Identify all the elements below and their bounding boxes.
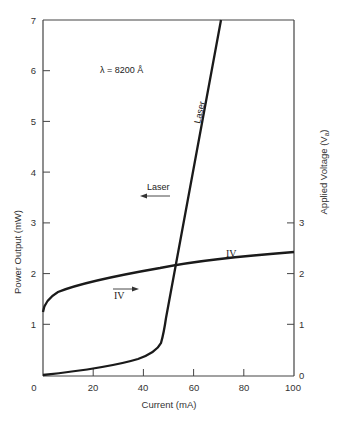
left-arrow-icon — [140, 194, 170, 199]
iv-curve-label: IV — [226, 248, 237, 259]
y2-tick-3: 3 — [299, 217, 304, 228]
y-tick-2: 2 — [31, 268, 36, 279]
y2-axis-tick-labels: 0 1 2 3 — [299, 217, 304, 381]
x-tick-80: 80 — [239, 382, 250, 393]
y-axis-title: Power Output (mW) — [12, 210, 23, 294]
x-axis-tick-labels: 0 20 40 60 80 100 — [31, 382, 301, 393]
y-tick-4: 4 — [31, 167, 36, 178]
y-tick-7: 7 — [31, 15, 36, 26]
y2-tick-0: 0 — [299, 370, 304, 381]
y-tick-1: 1 — [31, 319, 36, 330]
x-tick-0: 0 — [31, 382, 36, 393]
x-axis-ticks — [93, 369, 244, 376]
y-axis-tick-labels: 1 2 3 4 5 6 7 — [31, 15, 36, 330]
y2-tick-1: 1 — [299, 319, 304, 330]
iv-arrow-label: IV — [114, 290, 125, 301]
y-axis-ticks — [43, 71, 50, 325]
y-tick-3: 3 — [31, 217, 36, 228]
x-tick-20: 20 — [88, 382, 99, 393]
x-tick-40: 40 — [138, 382, 149, 393]
y-tick-6: 6 — [31, 65, 36, 76]
plot-frame — [43, 20, 294, 376]
chart: 1 2 3 4 5 6 7 0 1 2 3 0 20 40 60 80 100 … — [0, 0, 337, 423]
wavelength-label: λ = 8200 Å — [100, 65, 143, 75]
x-tick-100: 100 — [285, 382, 301, 393]
x-axis-title: Current (mA) — [142, 399, 197, 410]
laser-arrow-label: Laser — [147, 182, 170, 192]
y2-axis-title: Applied Voltage (Va) — [318, 130, 330, 215]
y2-axis-ticks — [287, 223, 294, 324]
y2-tick-2: 2 — [299, 268, 304, 279]
y-tick-5: 5 — [31, 116, 36, 127]
x-tick-60: 60 — [189, 382, 200, 393]
